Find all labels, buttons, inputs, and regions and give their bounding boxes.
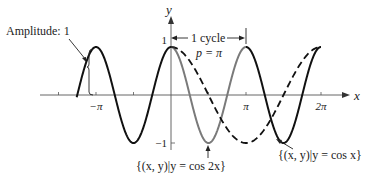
y-tick-label: 1: [162, 34, 168, 46]
period-label: p = π: [195, 46, 223, 60]
chart: −ππ2π1−1 x y Amplitude: 1 1 cycle p = π …: [0, 0, 374, 178]
cycle-arrowhead-right: [239, 36, 245, 41]
amplitude-pointer: [69, 39, 86, 60]
ticks: −ππ2π1−1: [59, 34, 327, 149]
cos2x-arrowhead: [206, 145, 211, 151]
cos2x-label: {(x, y)|y = cos 2x}: [136, 159, 226, 173]
x-tick-label: −π: [90, 100, 103, 112]
amplitude-arrowhead: [82, 57, 86, 62]
cycle-label: 1 cycle: [191, 31, 225, 45]
y-tick-label: −1: [155, 137, 167, 149]
y-axis-label: y: [164, 2, 172, 17]
x-tick-label: 2π: [315, 100, 327, 112]
y-axis-arrowhead: [168, 16, 174, 24]
x-tick-label: π: [243, 100, 249, 112]
cosx-label: {(x, y)|y = cos x}: [278, 148, 362, 162]
x-axis-label: x: [353, 88, 360, 103]
x-axis-arrowhead: [342, 92, 350, 98]
cycle-arrowhead-left: [171, 36, 177, 41]
amplitude-label: Amplitude: 1: [6, 24, 70, 38]
